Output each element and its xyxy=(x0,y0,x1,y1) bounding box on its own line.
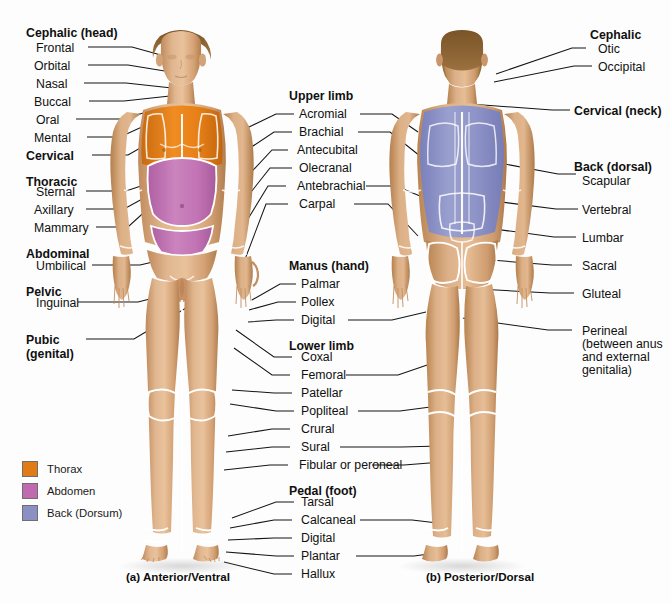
label-vertebral: Vertebral xyxy=(582,203,631,217)
label-orbital: Orbital xyxy=(34,59,70,73)
label-nasal: Nasal xyxy=(36,77,67,91)
label-cephalic-post: Cephalic xyxy=(590,28,641,42)
label-mental: Mental xyxy=(34,131,71,145)
label-frontal: Frontal xyxy=(36,41,74,55)
label-plantar: Plantar xyxy=(301,549,340,563)
legend-item-thorax: Thorax xyxy=(22,458,122,480)
label-antebrachial: Antebrachial xyxy=(297,179,365,193)
label-manus-hand: Manus (hand) xyxy=(289,259,369,273)
label-patellar: Patellar xyxy=(301,386,343,400)
label-mammary: Mammary xyxy=(34,221,89,235)
label-otic: Otic xyxy=(598,42,620,56)
label-coxal: Coxal xyxy=(301,350,332,364)
label-oral: Oral xyxy=(36,113,59,127)
caption-anterior: (a) Anterior/Ventral xyxy=(126,570,230,583)
label-lumbar: Lumbar xyxy=(582,231,624,245)
label-fibular: Fibular or peroneal xyxy=(299,458,402,472)
legend-item-abdomen: Abdomen xyxy=(22,480,122,502)
label-acromial: Acromial xyxy=(299,107,347,121)
label-pubic-genital: (genital) xyxy=(26,347,74,361)
label-femoral: Femoral xyxy=(301,368,346,382)
label-perineal-detail: (between anus and external genitalia) xyxy=(582,338,671,378)
legend-label-thorax: Thorax xyxy=(47,463,82,475)
label-antecubital: Antecubital xyxy=(297,143,358,157)
label-perineal: Perineal xyxy=(582,324,627,338)
label-tarsal: Tarsal xyxy=(301,495,334,509)
label-gluteal: Gluteal xyxy=(582,287,621,301)
label-brachial: Brachial xyxy=(299,125,343,139)
caption-posterior: (b) Posterior/Dorsal xyxy=(426,570,534,583)
posterior-figure xyxy=(389,30,534,574)
legend-label-abdomen: Abdomen xyxy=(47,485,95,497)
label-sacral: Sacral xyxy=(582,259,617,273)
label-palmar: Palmar xyxy=(301,277,340,291)
label-back-dorsal: Back (dorsal) xyxy=(574,160,652,174)
label-calcaneal: Calcaneal xyxy=(301,513,356,527)
label-occipital: Occipital xyxy=(598,60,645,74)
label-carpal: Carpal xyxy=(299,197,335,211)
label-sural: Sural xyxy=(301,440,330,454)
label-olecranal: Olecranal xyxy=(299,161,352,175)
label-cephalic-head: Cephalic (head) xyxy=(26,26,118,40)
legend-swatch-back-dorsum xyxy=(22,505,38,521)
label-cervical-neck: Cervical (neck) xyxy=(574,104,662,118)
label-cervical: Cervical xyxy=(26,149,74,163)
label-buccal: Buccal xyxy=(34,95,71,109)
label-popliteal: Popliteal xyxy=(301,404,348,418)
label-pubic: Pubic xyxy=(26,333,59,347)
label-scapular: Scapular xyxy=(582,174,631,188)
label-upper-limb: Upper limb xyxy=(289,89,353,103)
label-pollex: Pollex xyxy=(301,295,335,309)
label-digital-foot: Digital xyxy=(301,531,335,545)
label-inguinal: Inguinal xyxy=(36,296,79,310)
color-legend: Thorax Abdomen Back (Dorsum) xyxy=(22,458,122,524)
label-sternal: Sternal xyxy=(36,185,75,199)
anatomy-figure: Cephalic (head) Frontal Orbital Nasal Bu… xyxy=(0,0,671,604)
label-umbilical: Umbilical xyxy=(36,259,86,273)
label-hallux: Hallux xyxy=(301,567,335,581)
label-axillary: Axillary xyxy=(34,203,74,217)
label-digital-hand: Digital xyxy=(301,313,335,327)
label-crural: Crural xyxy=(301,422,334,436)
legend-swatch-thorax xyxy=(22,461,38,477)
legend-label-back-dorsum: Back (Dorsum) xyxy=(47,507,122,519)
legend-item-back-dorsum: Back (Dorsum) xyxy=(22,502,122,524)
legend-swatch-abdomen xyxy=(22,483,38,499)
